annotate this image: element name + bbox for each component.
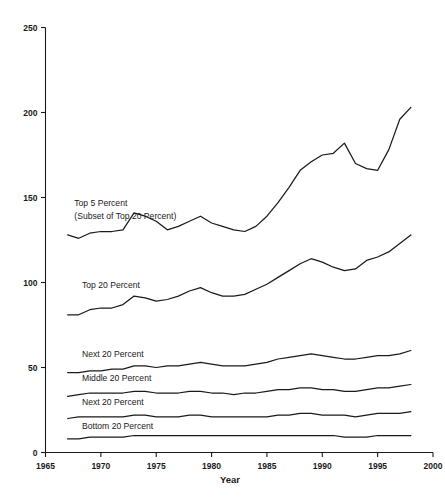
x-tick-label: 1995 (368, 461, 387, 471)
plot-background (0, 0, 445, 503)
y-tick-label: 0 (33, 448, 38, 458)
series-sublabel: (Subset of Top 20 Percent) (74, 211, 176, 221)
x-axis-title: Year (220, 474, 240, 485)
x-tick-label: 1980 (202, 461, 221, 471)
y-tick-label: 250 (23, 23, 37, 33)
y-tick-label: 100 (23, 278, 37, 288)
series-label: Top 5 Percent (74, 198, 128, 208)
x-tick-label: 1975 (147, 461, 166, 471)
chart-container: 050100150200250 196519701975198019851990… (0, 0, 445, 503)
series-label: Top 20 Percent (82, 280, 140, 290)
y-tick-label: 150 (23, 193, 37, 203)
series-label: Middle 20 Percent (82, 373, 152, 383)
series-label: Next 20 Percent (82, 349, 144, 359)
series-label: Bottom 20 Percent (82, 421, 154, 431)
x-tick-label: 1990 (313, 461, 332, 471)
x-tick-label: 1985 (257, 461, 276, 471)
y-tick-label: 50 (28, 363, 38, 373)
income-quintiles-line-chart: 050100150200250 196519701975198019851990… (0, 0, 445, 503)
x-tick-label: 1970 (91, 461, 110, 471)
y-tick-label: 200 (23, 108, 37, 118)
x-tick-label: 1965 (36, 461, 55, 471)
x-tick-label: 2000 (424, 461, 443, 471)
series-label: Next 20 Percent (82, 397, 144, 407)
